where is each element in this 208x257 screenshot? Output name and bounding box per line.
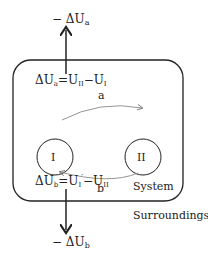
- top-label: − ΔU: [52, 12, 85, 26]
- thermo-cycle-diagram: − ΔUa ΔUa=UII−UI a I II b ΔUb=UI′−UII Sy…: [0, 0, 208, 257]
- svg-text:− ΔUb: − ΔUb: [52, 235, 90, 250]
- state-I-label: I: [51, 151, 55, 164]
- svg-text:ΔUa=UII−UI: ΔUa=UII−UI: [35, 73, 107, 88]
- surroundings-label: Surroundings: [133, 209, 208, 222]
- svg-text:− ΔUa: − ΔUa: [52, 12, 90, 27]
- state-II-label: II: [137, 151, 146, 164]
- svg-text:ΔUb=UI′−UII: ΔUb=UI′−UII: [35, 172, 109, 189]
- system-label: System: [133, 180, 174, 193]
- path-a-arrow: [62, 106, 142, 120]
- path-a-label: a: [98, 89, 105, 102]
- bottom-label: − ΔU: [52, 235, 85, 249]
